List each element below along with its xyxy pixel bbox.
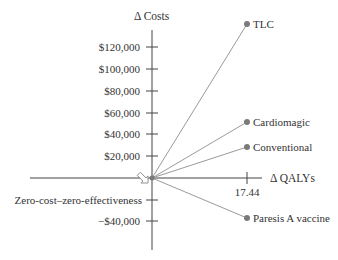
- point-tlc: [244, 21, 250, 27]
- y-tick-label: $60,000: [104, 107, 140, 119]
- origin-point: [150, 176, 155, 181]
- y-tick-label: −$40,000: [98, 215, 140, 227]
- point-paresis-a-vaccine: [244, 215, 250, 221]
- point-label-paresis-a-vaccine: Paresis A vaccine: [253, 212, 330, 224]
- point-label-cardiomagic: Cardiomagic: [253, 116, 310, 128]
- x-tick-label: 17.44: [235, 186, 260, 198]
- x-axis-title: Δ QALYs: [270, 172, 315, 184]
- point-cardiomagic: [244, 119, 250, 125]
- point-label-tlc: TLC: [253, 18, 274, 30]
- cost-effectiveness-plane: $120,000 $100,000 $80,000 $60,000 $40,00…: [0, 0, 338, 260]
- y-tick-label: $20,000: [104, 150, 140, 162]
- y-axis-title: Δ Costs: [134, 10, 170, 22]
- ray-lines: [152, 24, 247, 218]
- origin-annotation-label: Zero-cost–zero-effectiveness: [15, 194, 142, 206]
- point-conventional: [244, 144, 250, 150]
- point-label-conventional: Conventional: [253, 141, 312, 153]
- y-tick-label: $100,000: [99, 63, 141, 75]
- y-tick-label: $80,000: [104, 85, 140, 97]
- y-tick-label: $40,000: [104, 128, 140, 140]
- y-tick-label: $120,000: [99, 41, 141, 53]
